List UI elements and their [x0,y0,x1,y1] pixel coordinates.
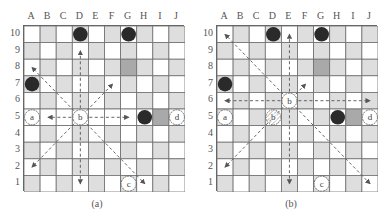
square-i3 [153,142,169,159]
row-label: 8 [197,60,213,71]
square-g7 [314,76,330,93]
square-h9 [330,43,346,60]
square-j8 [169,59,185,76]
square-i1 [346,175,362,192]
board-drawing: abcd [24,26,185,192]
column-label: B [232,10,248,21]
square-j6 [362,92,378,109]
row-label: 9 [197,44,213,55]
piece-c: c [121,176,136,191]
square-a3 [217,142,233,159]
square-i6 [153,92,169,109]
square-a9 [217,43,233,60]
column-label: E [87,10,103,21]
square-g8 [314,59,330,76]
square-b1 [233,175,249,192]
square-g7 [121,76,137,93]
column-label: E [280,10,296,21]
black-piece-icon [330,110,345,125]
square-f1 [298,175,314,192]
square-h8 [330,59,346,76]
square-e2 [88,159,104,176]
square-h7 [137,76,153,93]
row-label: 3 [4,143,20,154]
square-g8 [121,59,137,76]
row-label: 2 [4,160,20,171]
panel-b: ABCDEFGHIJ 10987654321 abbcd (b) [194,0,388,218]
square-f8 [105,59,121,76]
square-i4 [346,126,362,143]
column-label: H [136,10,152,21]
square-i2 [153,159,169,176]
square-f9 [298,43,314,60]
column-label: I [345,10,361,21]
piece-label: a [223,112,227,122]
square-a3 [24,142,40,159]
piece-label: c [127,179,131,189]
square-c10 [249,26,265,43]
row-label: 1 [4,176,20,187]
caption-b: (b) [194,198,388,209]
square-i5 [153,109,169,126]
square-j10 [362,26,378,43]
black-piece-icon [314,27,329,42]
square-b10 [233,26,249,43]
piece-a: a [218,110,233,125]
square-h6 [137,92,153,109]
square-h2 [137,159,153,176]
piece-label: c [320,179,324,189]
square-g6 [121,92,137,109]
square-b2 [233,159,249,176]
piece-label: a [30,112,34,122]
panel-a: ABCDEFGHIJ 10987654321 abcd (a) [0,0,194,218]
square-g3 [314,142,330,159]
piece-b: b [73,110,88,125]
square-h10 [137,26,153,43]
column-label: F [104,10,120,21]
column-label: D [264,10,280,21]
square-g2 [314,159,330,176]
square-h1 [330,175,346,192]
square-f8 [298,59,314,76]
square-j4 [169,126,185,143]
piece-label: b [78,112,83,122]
square-f2 [298,159,314,176]
square-h2 [330,159,346,176]
column-label: A [23,10,39,21]
column-label: A [216,10,232,21]
column-label: G [120,10,136,21]
square-c1 [56,175,72,192]
square-j10 [169,26,185,43]
square-d9 [265,43,281,60]
piece-b: b [282,93,297,108]
square-e1 [88,175,104,192]
square-c9 [249,43,265,60]
row-label: 1 [197,176,213,187]
square-i3 [346,142,362,159]
square-h4 [330,126,346,143]
square-a10 [24,26,40,43]
row-label: 7 [197,77,213,88]
square-j9 [169,43,185,60]
column-label: H [329,10,345,21]
row-label: 10 [4,27,20,38]
square-d2 [265,159,281,176]
square-c2 [56,159,72,176]
column-label: J [168,10,184,21]
caption-a: (a) [0,198,194,209]
row-label: 6 [197,93,213,104]
square-d1 [265,175,281,192]
square-b8 [233,59,249,76]
square-c9 [56,43,72,60]
square-b7 [233,76,249,93]
square-g9 [121,43,137,60]
square-d8 [265,59,281,76]
square-e10 [88,26,104,43]
row-label: 3 [197,143,213,154]
square-f6 [105,92,121,109]
square-h8 [137,59,153,76]
game-board-b: abbcd [216,25,377,191]
square-i1 [153,175,169,192]
square-e3 [88,142,104,159]
board-drawing: abbcd [217,26,378,192]
